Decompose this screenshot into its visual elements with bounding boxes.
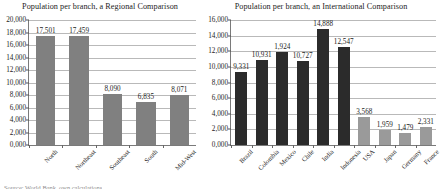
bar[interactable]: 14,888 bbox=[317, 29, 329, 145]
x-label-slot: North bbox=[29, 145, 62, 185]
x-label-slot: Indonesia bbox=[334, 145, 355, 185]
x-tick-label: France bbox=[422, 148, 440, 166]
bar[interactable]: 1,479 bbox=[399, 133, 411, 145]
bar-value-label: 1,479 bbox=[397, 124, 413, 132]
international-comparison-panel: Population per branch, an International … bbox=[200, 0, 442, 189]
bar[interactable]: 1,924 bbox=[276, 52, 288, 145]
plot-area-regional: 0,0002,0004,0006,0008,00010,00012,00014,… bbox=[28, 20, 196, 146]
bar[interactable]: 8,090 bbox=[103, 94, 122, 145]
bar-slot: 1,479 bbox=[395, 20, 416, 145]
x-label-slot: India bbox=[313, 145, 334, 185]
x-axis-labels-regional: NorthNortheastSoutheastSouthMid-West bbox=[29, 145, 196, 185]
bar-slot: 2,331 bbox=[416, 20, 437, 145]
x-label-slot: Mid-West bbox=[163, 145, 196, 185]
bar[interactable]: 8,071 bbox=[170, 95, 189, 145]
bar-value-label: 1,959 bbox=[377, 121, 393, 129]
bar[interactable]: 17,459 bbox=[69, 36, 88, 145]
y-tick-label: 8,000 bbox=[212, 79, 228, 87]
bar-slot: 14,888 bbox=[313, 20, 334, 145]
chart-title-regional: Population per branch, a Regional Compar… bbox=[0, 2, 200, 11]
bar-value-label: 14,888 bbox=[313, 20, 333, 28]
bar-slot: 12,547 bbox=[334, 20, 355, 145]
y-tick-label: 12,000 bbox=[208, 47, 228, 55]
bar-slot: 8,090 bbox=[96, 20, 129, 145]
y-tick-label: 0,000 bbox=[212, 141, 228, 149]
y-tick-label: 4,000 bbox=[212, 110, 228, 118]
y-tick-label: 16,000 bbox=[6, 41, 26, 49]
bar-slot: 10,727 bbox=[293, 20, 314, 145]
bar-slot: 3,568 bbox=[354, 20, 375, 145]
y-tick-label: 14,000 bbox=[208, 32, 228, 40]
bar[interactable]: 6,835 bbox=[136, 102, 155, 145]
bar-value-label: 10,931 bbox=[252, 51, 272, 59]
bar[interactable]: 10,727 bbox=[297, 61, 309, 145]
y-tick-label: 2,000 bbox=[212, 125, 228, 133]
x-label-slot: Brazil bbox=[231, 145, 252, 185]
plot-area-international: 0,0002,0004,0006,0008,00010,00012,00014,… bbox=[230, 20, 436, 146]
y-tick-label: 2,000 bbox=[10, 129, 26, 137]
bar-slot: 8,071 bbox=[163, 20, 196, 145]
chart-title-international: Population per branch, an International … bbox=[200, 2, 442, 11]
x-label-slot: Colombia bbox=[252, 145, 273, 185]
bar[interactable]: 12,547 bbox=[338, 47, 350, 145]
y-tick-label: 18,000 bbox=[6, 29, 26, 37]
bar[interactable]: 2,331 bbox=[420, 127, 432, 145]
chart-page: Population per branch, a Regional Compar… bbox=[0, 0, 442, 189]
y-tick-label: 0,000 bbox=[10, 141, 26, 149]
bar[interactable]: 9,331 bbox=[235, 72, 247, 145]
bar-value-label: 8,071 bbox=[171, 86, 187, 94]
bar-slot: 17,501 bbox=[29, 20, 62, 145]
bar-value-label: 17,501 bbox=[36, 27, 56, 35]
y-tick-label: 10,000 bbox=[6, 79, 26, 87]
bar-slot: 10,931 bbox=[252, 20, 273, 145]
bar-value-label: 9,331 bbox=[233, 63, 249, 71]
bar-value-label: 10,727 bbox=[293, 52, 313, 60]
bar-slot: 9,331 bbox=[231, 20, 252, 145]
bar-slot: 1,924 bbox=[272, 20, 293, 145]
x-tick-label: Mid-West bbox=[174, 148, 197, 171]
bar-value-label: 3,568 bbox=[356, 108, 372, 116]
x-label-slot: USA bbox=[354, 145, 375, 185]
y-tick-label: 6,000 bbox=[10, 104, 26, 112]
bar-value-label: 2,331 bbox=[418, 118, 434, 126]
y-tick-label: 14,000 bbox=[6, 54, 26, 62]
x-tick-label: South bbox=[143, 148, 159, 164]
bar-slot: 1,959 bbox=[375, 20, 396, 145]
x-label-slot: Japan bbox=[375, 145, 396, 185]
x-label-slot: Northeast bbox=[62, 145, 95, 185]
x-tick-label: Northeast bbox=[74, 148, 97, 171]
bar-value-label: 12,547 bbox=[334, 38, 354, 46]
x-label-slot: Southeast bbox=[96, 145, 129, 185]
y-tick-label: 8,000 bbox=[10, 91, 26, 99]
bar[interactable]: 3,568 bbox=[358, 117, 370, 145]
bar-value-label: 8,090 bbox=[104, 85, 120, 93]
x-label-slot: South bbox=[129, 145, 162, 185]
y-tick-label: 12,000 bbox=[6, 66, 26, 74]
bar-value-label: 17,459 bbox=[69, 27, 89, 35]
x-tick-label: North bbox=[43, 148, 59, 164]
x-label-slot: Mexico bbox=[272, 145, 293, 185]
bar-value-label: 6,835 bbox=[138, 93, 154, 101]
bar-value-label: 1,924 bbox=[274, 43, 290, 51]
bar-slot: 6,835 bbox=[129, 20, 162, 145]
regional-comparison-panel: Population per branch, a Regional Compar… bbox=[0, 0, 200, 189]
x-tick-label: Southeast bbox=[107, 148, 130, 171]
y-tick-label: 6,000 bbox=[212, 94, 228, 102]
x-axis-labels-international: BrazilColombiaMexicoChileIndiaIndonesiaU… bbox=[231, 145, 436, 185]
bar[interactable]: 10,931 bbox=[256, 60, 268, 145]
source-footnote: Source: World Bank, own calculations bbox=[4, 184, 102, 189]
bar-group-international: 9,33110,9311,92410,72714,88812,5473,5681… bbox=[231, 20, 436, 145]
y-tick-label: 10,000 bbox=[208, 63, 228, 71]
bar[interactable]: 17,501 bbox=[36, 36, 55, 145]
x-label-slot: Chile bbox=[293, 145, 314, 185]
bar-group-regional: 17,50117,4598,0906,8358,071 bbox=[29, 20, 196, 145]
y-tick-label: 16,000 bbox=[208, 16, 228, 24]
bar-slot: 17,459 bbox=[62, 20, 95, 145]
x-label-slot: Germany bbox=[395, 145, 416, 185]
y-tick-label: 4,000 bbox=[10, 116, 26, 124]
bar[interactable]: 1,959 bbox=[379, 130, 391, 145]
y-tick-label: 20,000 bbox=[6, 16, 26, 24]
x-label-slot: France bbox=[416, 145, 437, 185]
